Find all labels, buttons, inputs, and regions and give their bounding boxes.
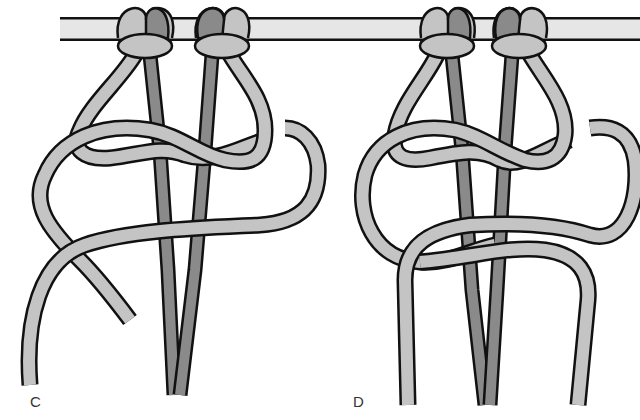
panel-label-c: C: [30, 393, 41, 410]
larks-head-left-d: [420, 8, 475, 58]
larks-head-right-c: [195, 8, 249, 58]
larks-head-right-d: [492, 8, 547, 58]
macrame-diagram: .lc-o { fill: none; stroke: #111; stroke…: [0, 0, 640, 420]
panel-c: [29, 8, 318, 395]
panel-label-d: D: [353, 393, 364, 410]
larks-head-left-c: [118, 8, 174, 58]
panel-d: [362, 8, 635, 405]
